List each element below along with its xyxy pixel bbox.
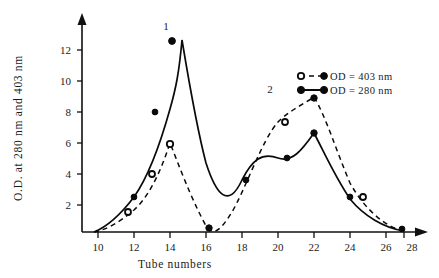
legend-marker-open-circle [298, 73, 304, 79]
legend-entry-od-403: OD = 403 nm [298, 71, 393, 82]
data-point-403-t21 [311, 95, 317, 101]
data-point-403-t12 [125, 209, 131, 215]
x-tick-label-10: 10 [93, 241, 105, 253]
y-tick-label-10: 10 [60, 75, 72, 87]
x-tick-label-18: 18 [237, 241, 249, 253]
x-tick-label-28: 28 [407, 241, 419, 253]
y-tick-label-8: 8 [66, 106, 72, 118]
y-tick-label-12: 12 [60, 44, 71, 56]
data-point-280-t13 [152, 109, 158, 115]
x-tick-label-22: 22 [309, 241, 320, 253]
data-point-280-t24 [347, 194, 353, 200]
data-point-280-t14 [169, 38, 176, 45]
legend-label-od-403: OD = 403 nm [330, 71, 393, 82]
y-axis-arrowhead [78, 13, 87, 25]
x-axis-arrowhead [415, 228, 428, 237]
x-tick-label-20: 20 [273, 241, 285, 253]
y-tick-label-4: 4 [66, 168, 72, 180]
x-tick-label-14: 14 [165, 241, 177, 253]
legend-marker-filled-end [321, 73, 328, 80]
legend-marker-filled-circle-end [320, 86, 327, 93]
data-point-280-t21 [311, 130, 317, 136]
chart-legend: OD = 403 nm OD = 280 nm [297, 71, 392, 96]
legend-entry-od-280: OD = 280 nm [297, 85, 392, 96]
x-tick-label-26: 26 [381, 241, 393, 253]
y-axis [78, 13, 87, 232]
legend-label-od-280: OD = 280 nm [330, 85, 393, 96]
data-point-403-t20 [282, 119, 288, 125]
peak-1-annotation: 1 [163, 20, 169, 32]
data-point-280-t18 [243, 177, 249, 183]
chromatography-elution-figure: 12 10 8 6 4 2 10 12 14 16 18 20 [0, 0, 439, 278]
data-point-280-t20 [284, 155, 290, 161]
x-tick-label-12: 12 [129, 241, 140, 253]
data-point-403-t17 [206, 225, 212, 231]
data-point-280-t28 [399, 226, 405, 232]
y-tick-label-2: 2 [66, 199, 72, 211]
y-axis-title: O.D. at 280 nm and 403 nm [12, 55, 24, 201]
data-point-280-t12 [131, 194, 137, 200]
legend-marker-filled-circle-start [297, 86, 304, 93]
x-axis-tick-labels: 10 12 14 16 18 20 22 24 26 28 [93, 241, 419, 253]
x-tick-label-16: 16 [201, 241, 213, 253]
peak-2-annotation: 2 [267, 83, 273, 95]
data-point-403-t13 [149, 171, 155, 177]
chart-canvas: 12 10 8 6 4 2 10 12 14 16 18 20 [0, 0, 439, 278]
x-tick-label-24: 24 [345, 241, 357, 253]
series-line-od-403 [94, 97, 404, 232]
data-point-403-t14 [167, 141, 173, 147]
data-point-403-t25 [360, 194, 366, 200]
y-tick-label-6: 6 [66, 137, 72, 149]
y-axis-tick-labels: 12 10 8 6 4 2 [60, 44, 72, 211]
x-axis-ticks [98, 232, 404, 238]
x-axis-title: Tube numbers [138, 258, 212, 270]
